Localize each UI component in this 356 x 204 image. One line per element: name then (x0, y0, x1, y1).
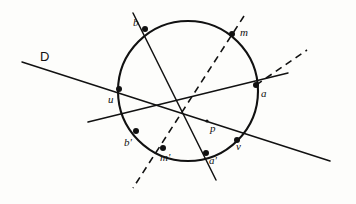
point-label-bprime: b' (124, 137, 132, 148)
vertex-dot-group (116, 26, 259, 156)
point-dot-b (142, 26, 148, 32)
point-dot-u (116, 86, 122, 92)
point-label-a: a (261, 88, 267, 99)
point-dot-bprime (133, 128, 139, 134)
point-label-mprime: m' (160, 152, 170, 163)
dashed-m-mprime-ext (133, 16, 244, 188)
line-D-u-a-v (22, 62, 330, 161)
dashed-a-tangent (256, 50, 307, 85)
point-label-b: b (133, 17, 139, 28)
point-dot-m (229, 31, 235, 37)
point-dot-a (253, 82, 259, 88)
point-label-v: v (236, 141, 241, 152)
point-dot-p (205, 119, 208, 122)
geometry-canvas (0, 0, 356, 204)
point-label-m: m (240, 27, 248, 38)
geometry-figure: bmuab'm'a'vpD (0, 0, 356, 204)
point-label-aprime: a' (209, 155, 217, 166)
solid-line-group (22, 13, 330, 180)
chord-b-aprime (133, 13, 216, 180)
point-label-p: p (210, 123, 216, 134)
line-label-D: D (40, 50, 49, 63)
point-label-u: u (108, 94, 114, 105)
